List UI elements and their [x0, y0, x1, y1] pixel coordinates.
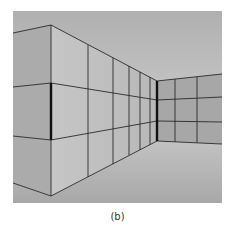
left-face	[13, 25, 51, 196]
back-wall	[157, 74, 222, 144]
figure-caption: (b)	[0, 211, 235, 222]
corridor-illusion-figure	[0, 0, 235, 235]
